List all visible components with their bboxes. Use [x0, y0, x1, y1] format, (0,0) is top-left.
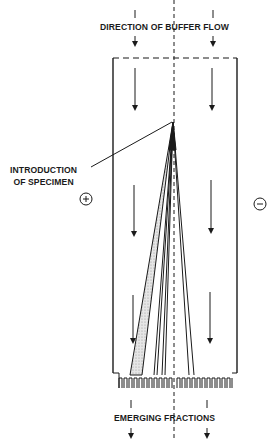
specimen-label-line2: OF SPECIMEN	[10, 176, 77, 188]
emerging-fractions-label: EMERGING FRACTIONS	[114, 413, 215, 423]
separation-chamber	[113, 58, 237, 373]
separated-bands	[130, 122, 194, 375]
specimen-label: INTRODUCTION OF SPECIMEN	[10, 164, 77, 188]
specimen-label-line1: INTRODUCTION	[10, 164, 77, 176]
negative-electrode-icon	[254, 198, 266, 210]
positive-electrode-icon	[80, 193, 92, 205]
diagram-graphic	[0, 0, 278, 443]
electrophoresis-diagram: DIRECTION OF BUFFER FLOW INTRODUCTION OF…	[0, 0, 278, 443]
buffer-flow-label: DIRECTION OF BUFFER FLOW	[100, 22, 229, 32]
specimen-pointer-line	[91, 122, 172, 167]
